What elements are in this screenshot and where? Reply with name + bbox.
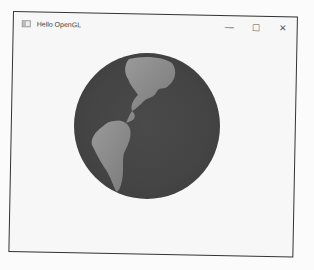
maximize-button[interactable]: ☐	[243, 16, 270, 39]
window-controls: — ☐ ✕	[216, 16, 297, 40]
continents-icon	[74, 53, 220, 199]
close-button[interactable]: ✕	[270, 17, 297, 40]
opengl-earth-globe	[74, 53, 220, 199]
minimize-button[interactable]: —	[216, 16, 243, 39]
app-window-icon	[22, 20, 31, 27]
window-title: Hello OpenGL	[37, 20, 81, 28]
close-icon: ✕	[279, 23, 287, 33]
title-bar[interactable]: Hello OpenGL — ☐ ✕	[14, 12, 297, 39]
maximize-icon: ☐	[252, 23, 260, 33]
minimize-icon: —	[225, 22, 234, 32]
